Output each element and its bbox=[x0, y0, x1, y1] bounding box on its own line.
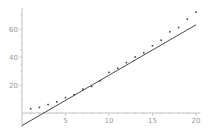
scatter-plot-with-fit: 5101520204060 bbox=[0, 0, 214, 135]
data-point bbox=[169, 31, 171, 33]
data-point bbox=[143, 52, 145, 54]
data-point bbox=[39, 107, 41, 109]
data-points bbox=[30, 11, 197, 109]
data-point bbox=[178, 27, 180, 29]
data-point bbox=[108, 72, 110, 74]
y-tick-label: 20 bbox=[9, 82, 18, 90]
data-point bbox=[152, 45, 154, 47]
data-point bbox=[30, 108, 32, 110]
tick-labels: 5101520204060 bbox=[9, 26, 200, 126]
x-tick-label: 5 bbox=[63, 117, 67, 125]
fit-line bbox=[22, 25, 196, 126]
data-point bbox=[73, 94, 75, 96]
data-point bbox=[160, 39, 162, 41]
y-tick-label: 40 bbox=[9, 54, 18, 62]
x-tick-label: 15 bbox=[148, 117, 157, 125]
data-point bbox=[47, 104, 49, 106]
data-point bbox=[65, 97, 67, 99]
x-tick-label: 20 bbox=[192, 117, 201, 125]
data-point bbox=[187, 18, 189, 20]
data-point bbox=[82, 88, 84, 90]
tick-marks bbox=[19, 15, 196, 116]
y-tick-label: 60 bbox=[9, 26, 18, 34]
data-point bbox=[56, 101, 58, 103]
x-tick-label: 10 bbox=[105, 117, 114, 125]
data-point bbox=[91, 86, 93, 88]
data-point bbox=[117, 67, 119, 69]
data-point bbox=[100, 80, 102, 82]
data-point bbox=[195, 11, 197, 13]
data-point bbox=[126, 62, 128, 64]
regression-line bbox=[22, 25, 196, 126]
data-point bbox=[134, 56, 136, 58]
axes bbox=[22, 8, 200, 127]
